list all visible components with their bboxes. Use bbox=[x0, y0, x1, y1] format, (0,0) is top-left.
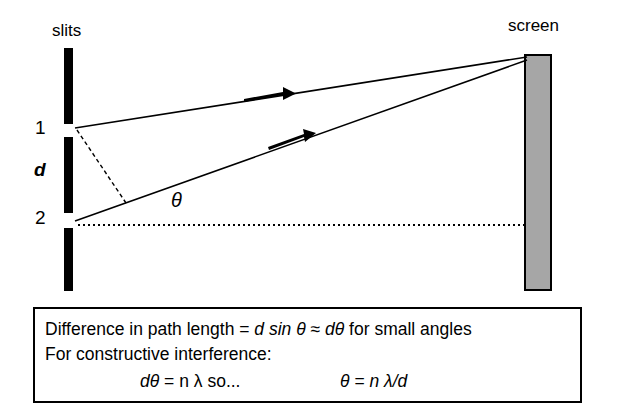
slit-1-label: 1 bbox=[35, 118, 46, 137]
ray-1-direction-arrow bbox=[244, 87, 296, 102]
formula-line3-equals-nlambda: = n λ bbox=[159, 371, 202, 391]
formula-line1-prefix: Difference in path length = bbox=[45, 319, 254, 339]
slits-label: slits bbox=[52, 22, 81, 39]
formula-line-condition: dθ = n λ so... bbox=[140, 373, 240, 391]
figure-canvas: slits screen 1 d 2 θ Difference in path … bbox=[0, 0, 618, 417]
barrier-segment-middle bbox=[64, 137, 73, 213]
formula-line3-theta: θ bbox=[340, 371, 350, 391]
barrier-segment-bottom bbox=[64, 228, 73, 291]
angle-theta-label: θ bbox=[171, 190, 182, 210]
formula-line3-dtheta: dθ bbox=[140, 371, 159, 391]
slit-2-label: 2 bbox=[35, 208, 46, 227]
formula-line-solution: θ = n λ/d bbox=[340, 373, 407, 391]
formula-box: Difference in path length = d sin θ ≈ dθ… bbox=[33, 307, 582, 403]
formula-line1-approx: ≈ bbox=[306, 319, 325, 339]
formula-line3-so: so... bbox=[203, 371, 241, 391]
formula-line1-suffix: for small angles bbox=[344, 319, 471, 339]
formula-line-constructive: For constructive interference: bbox=[45, 346, 272, 364]
formula-line1-dsin: d sin θ bbox=[254, 319, 305, 339]
screen-rect bbox=[525, 55, 551, 290]
ray-from-slit-2 bbox=[75, 60, 527, 221]
formula-line1-dtheta: dθ bbox=[325, 319, 344, 339]
formula-line3-equals-nlambda-over-d: = n λ/d bbox=[350, 371, 408, 391]
ray-from-slit-1 bbox=[75, 57, 527, 128]
barrier-segment-top bbox=[64, 48, 73, 124]
path-difference-dashed-line bbox=[77, 130, 126, 203]
screen-label: screen bbox=[508, 17, 559, 34]
formula-line-path-difference: Difference in path length = d sin θ ≈ dθ… bbox=[45, 321, 472, 339]
slit-spacing-label: d bbox=[34, 160, 46, 179]
ray-2-direction-arrow bbox=[268, 129, 316, 150]
